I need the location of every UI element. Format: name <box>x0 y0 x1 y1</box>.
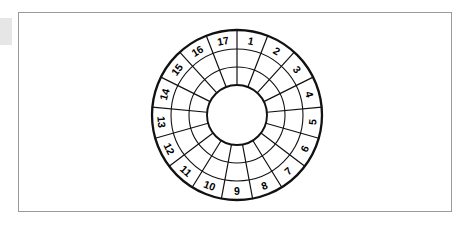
hub-group <box>207 85 267 145</box>
sector-divider-14 <box>152 107 207 112</box>
page-canvas: 1234567891011121314151617 <box>0 0 476 229</box>
sector-label-1: 1 <box>247 34 255 47</box>
sector-label-7: 7 <box>282 164 295 177</box>
sector-label-15: 15 <box>168 61 185 78</box>
hub-circle <box>207 85 267 145</box>
sector-label-12: 12 <box>161 141 177 157</box>
sector-label-4: 4 <box>303 90 316 99</box>
sector-label-13: 13 <box>155 116 168 129</box>
sector-label-10: 10 <box>202 178 217 193</box>
sector-divider-10 <box>221 144 231 198</box>
sector-label-9: 9 <box>234 185 240 197</box>
sector-label-11: 11 <box>178 163 194 179</box>
sector-label-16: 16 <box>189 43 205 59</box>
wheel-svg: 1234567891011121314151617 <box>0 0 476 229</box>
sector-label-17: 17 <box>216 34 230 48</box>
sector-label-5: 5 <box>306 118 319 125</box>
sector-label-3: 3 <box>291 64 304 76</box>
wheel-diagram: 1234567891011121314151617 <box>0 0 476 229</box>
sector-label-2: 2 <box>271 44 282 57</box>
sector-divider-8 <box>253 141 282 188</box>
sector-divider-5 <box>267 107 322 112</box>
sector-label-6: 6 <box>298 143 311 154</box>
sector-label-8: 8 <box>259 179 269 192</box>
sector-divider-9 <box>243 144 253 198</box>
sector-label-14: 14 <box>157 87 172 102</box>
